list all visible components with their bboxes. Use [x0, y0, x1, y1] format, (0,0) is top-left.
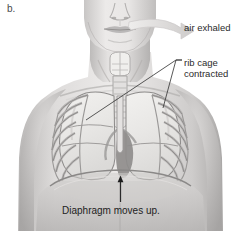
label-rib-cage-contracted: rib cage contracted: [184, 57, 228, 79]
left-nostril: [112, 17, 117, 20]
label-air-exhaled: air exhaled: [184, 22, 230, 33]
sternum: [117, 96, 123, 153]
right-nostril: [124, 17, 129, 20]
label-rib-cage-line2: contracted: [184, 68, 228, 79]
caption-diaphragm-moves-up: Diaphragm moves up.: [62, 205, 160, 216]
label-rib-cage-line1: rib cage: [184, 57, 228, 68]
anatomy-illustration: [0, 0, 241, 231]
larynx-thyroid: [110, 52, 130, 76]
breathing-diagram-panel-b: b. air exhaled rib cage contracted Diaph…: [0, 0, 241, 231]
panel-letter: b.: [7, 3, 15, 14]
